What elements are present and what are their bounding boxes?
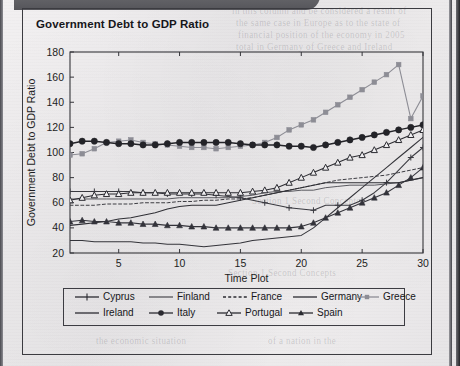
x-tick-label: 25 — [356, 257, 368, 269]
legend-item-germany[interactable]: Germany — [292, 291, 362, 302]
data-point — [201, 139, 207, 145]
legend-key-dashed — [222, 292, 248, 302]
series-italy — [67, 122, 426, 151]
legend-item-italy[interactable]: Italy — [148, 307, 195, 318]
data-point — [140, 142, 146, 148]
data-point — [274, 142, 280, 148]
x-tick-label: 5 — [116, 257, 122, 269]
data-point — [323, 110, 328, 115]
series-spain — [67, 164, 426, 230]
y-tick-label: 60 — [52, 196, 64, 208]
data-point — [396, 127, 402, 133]
legend-label: Portugal — [245, 307, 282, 318]
y-tick-label: 140 — [46, 96, 64, 108]
data-point — [383, 129, 389, 135]
legend-key-line-triangle-open — [216, 308, 242, 318]
data-point — [420, 164, 426, 170]
data-point — [408, 124, 414, 130]
x-axis-title: Time Plot — [225, 272, 269, 284]
data-point — [164, 141, 170, 147]
data-point — [396, 62, 401, 67]
x-tick-label: 20 — [295, 257, 307, 269]
legend-item-finland[interactable]: Finland — [148, 291, 210, 302]
data-point — [348, 95, 353, 100]
data-point — [347, 137, 353, 143]
legend-label: Spain — [317, 307, 343, 318]
data-point — [152, 142, 158, 148]
y-axis-title: Government Debt to GDP Ratio — [25, 79, 37, 227]
legend-key-solid-thin — [148, 292, 174, 302]
data-point — [335, 102, 340, 107]
figure-title: Government Debt to GDP Ratio — [36, 18, 209, 30]
line-chart: 2040608010012014016018051015202530Time P… — [22, 40, 430, 290]
legend-item-cyprus[interactable]: Cyprus — [74, 291, 135, 302]
data-point — [213, 139, 219, 145]
data-point — [323, 142, 329, 148]
data-point — [384, 190, 390, 196]
legend-item-france[interactable]: France — [222, 291, 282, 302]
x-tick-label: 10 — [174, 257, 186, 269]
x-tick-label: 30 — [417, 257, 429, 269]
data-point — [311, 118, 316, 123]
data-point — [286, 143, 292, 149]
data-point — [237, 141, 243, 147]
data-point — [68, 153, 73, 158]
data-point — [79, 217, 85, 223]
data-point — [249, 142, 255, 148]
chart-legend: CyprusFinlandFranceGermanyGreece Ireland… — [63, 288, 405, 326]
page-gutter-right-inner — [449, 0, 452, 366]
legend-label: Cyprus — [103, 291, 135, 302]
data-point — [298, 143, 304, 149]
data-point — [202, 145, 207, 150]
data-point — [176, 139, 182, 145]
data-point — [384, 72, 389, 77]
data-point — [128, 141, 134, 147]
legend-label: Ireland — [103, 307, 134, 318]
data-point — [287, 128, 292, 133]
data-point — [80, 151, 85, 156]
y-tick-label: 80 — [52, 171, 64, 183]
legend-label: Italy — [177, 307, 195, 318]
data-point — [310, 144, 316, 150]
data-point — [335, 139, 341, 145]
legend-row-2: IrelandItalyPortugalSpain — [64, 307, 404, 321]
y-tick-label: 40 — [52, 221, 64, 233]
data-point — [421, 94, 426, 99]
legend-key-line-triangle-filled — [288, 308, 314, 318]
data-point — [371, 132, 377, 138]
legend-label: Greece — [383, 291, 416, 302]
data-point — [310, 207, 316, 213]
page-gutter-left — [0, 0, 3, 366]
data-point — [103, 139, 109, 145]
data-point — [275, 135, 280, 140]
legend-key-line-circle-marker — [148, 308, 174, 318]
legend-item-ireland[interactable]: Ireland — [74, 307, 134, 318]
legend-label: Finland — [177, 291, 210, 302]
data-point — [360, 87, 365, 92]
legend-key-line-plus-marker — [74, 292, 100, 302]
data-point — [92, 146, 97, 151]
data-point — [262, 200, 268, 206]
legend-label: France — [251, 291, 282, 302]
chart-canvas: 2040608010012014016018051015202530Time P… — [22, 40, 430, 290]
series-layer — [67, 62, 426, 246]
data-point — [116, 141, 122, 147]
legend-key-solid — [292, 292, 318, 302]
data-point — [359, 134, 365, 140]
data-point — [189, 139, 195, 145]
legend-item-spain[interactable]: Spain — [288, 307, 343, 318]
y-tick-label: 20 — [52, 247, 64, 259]
data-point — [226, 145, 231, 150]
data-point — [214, 146, 219, 151]
y-tick-label: 160 — [46, 71, 64, 83]
data-point — [299, 123, 304, 128]
legend-item-portugal[interactable]: Portugal — [216, 307, 282, 318]
legend-item-greece[interactable]: Greece — [354, 291, 416, 302]
data-point — [262, 142, 268, 148]
data-point — [67, 141, 73, 147]
y-tick-label: 100 — [46, 146, 64, 158]
page-gutter-right — [456, 0, 460, 366]
data-point — [67, 188, 73, 194]
legend-row-1: CyprusFinlandFranceGermanyGreece — [64, 291, 404, 305]
y-tick-label: 180 — [46, 46, 64, 58]
